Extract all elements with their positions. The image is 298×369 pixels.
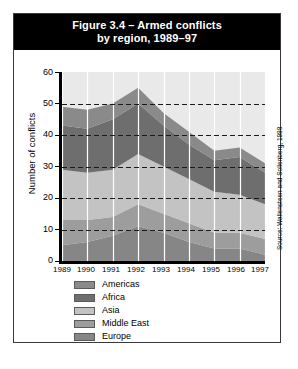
source-note: Source: Wallensteen and Sollenberg, 1998 bbox=[267, 74, 279, 254]
y-tick-10: 10 bbox=[27, 225, 53, 234]
y-tick-30: 30 bbox=[27, 162, 53, 171]
legend-label-europe: Europe bbox=[102, 332, 131, 341]
x-tick-1990: 1990 bbox=[73, 265, 99, 274]
x-tick-1997: 1997 bbox=[247, 265, 273, 274]
plot-frame bbox=[59, 72, 265, 264]
legend-label-middle-east: Middle East bbox=[102, 319, 149, 328]
y-tick-0: 0 bbox=[27, 256, 53, 265]
x-tick-1991: 1991 bbox=[98, 265, 124, 274]
y-tick-40: 40 bbox=[27, 130, 53, 139]
x-tick-1996: 1996 bbox=[223, 265, 249, 274]
source-text: Source: Wallensteen and Sollenberg, 1998 bbox=[276, 127, 283, 250]
y-tick-50: 50 bbox=[27, 99, 53, 108]
legend-label-americas: Americas bbox=[102, 280, 140, 289]
figure-title-line2: by region, 1989–97 bbox=[97, 32, 197, 45]
chart-area: Number of conflicts 60 50 40 30 20 10 0 … bbox=[14, 50, 280, 343]
legend-item-europe: Europe bbox=[74, 330, 149, 343]
legend-swatch-asia bbox=[74, 307, 95, 315]
legend-label-asia: Asia bbox=[102, 306, 120, 315]
legend-swatch-americas bbox=[74, 281, 95, 289]
legend-item-africa: Africa bbox=[74, 291, 149, 304]
legend-swatch-africa bbox=[74, 294, 95, 302]
legend-swatch-europe bbox=[74, 333, 95, 341]
legend-item-middle-east: Middle East bbox=[74, 317, 149, 330]
x-tick-1995: 1995 bbox=[198, 265, 224, 274]
figure-title-banner: Figure 3.4 – Armed conflicts by region, … bbox=[14, 14, 280, 50]
legend-item-asia: Asia bbox=[74, 304, 149, 317]
legend-swatch-middle-east bbox=[74, 320, 95, 328]
legend-item-americas: Americas bbox=[74, 278, 149, 291]
x-tick-1992: 1992 bbox=[123, 265, 149, 274]
figure-container: Figure 3.4 – Armed conflicts by region, … bbox=[13, 13, 281, 343]
chart-legend: Americas Africa Asia Middle East Europe bbox=[74, 278, 149, 343]
x-tick-1994: 1994 bbox=[173, 265, 199, 274]
figure-title-line1: Figure 3.4 – Armed conflicts bbox=[72, 19, 222, 32]
legend-label-africa: Africa bbox=[102, 293, 125, 302]
stacked-area-plot bbox=[62, 72, 265, 261]
y-tick-60: 60 bbox=[27, 68, 53, 77]
y-tick-20: 20 bbox=[27, 193, 53, 202]
x-tick-1989: 1989 bbox=[49, 265, 75, 274]
x-tick-1993: 1993 bbox=[148, 265, 174, 274]
